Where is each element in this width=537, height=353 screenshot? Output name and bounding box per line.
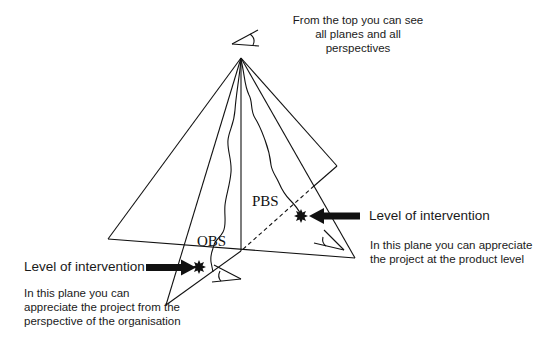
edge-back-corner [314, 166, 337, 186]
right-intervention-title: Level of intervention [369, 208, 490, 224]
eye-top-icon [232, 30, 259, 46]
eye-left-icon [212, 265, 241, 282]
right-intervention-description: In this plane you can appreciate the pro… [370, 238, 535, 266]
eye-right-icon [314, 230, 344, 250]
pbs-label: PBS [252, 193, 279, 210]
edge-back-right [241, 58, 337, 166]
edge-right-long [241, 58, 355, 258]
edge-base [108, 239, 355, 258]
left-intervention-description: In this plane you can appreciate the pro… [24, 286, 184, 328]
arrow-right-icon [146, 260, 196, 276]
left-intervention-title: Level of intervention [24, 259, 145, 275]
star-burst-right-icon [294, 209, 308, 223]
top-view-note: From the top you can see all planes and … [287, 13, 429, 55]
edge-left-outer [108, 58, 241, 239]
obs-label: OBS [197, 233, 226, 250]
wavy-path-pbs [241, 60, 301, 215]
